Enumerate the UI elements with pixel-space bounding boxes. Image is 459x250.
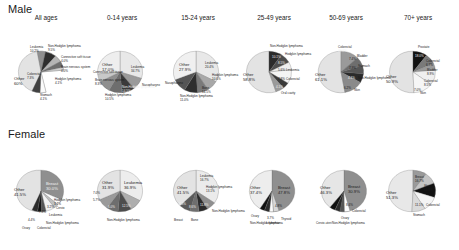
panel-male-25-49: 25-49 years: [236, 0, 312, 125]
slice-label-ovary: Ovary: [251, 214, 260, 218]
slice-value-colorectal: 6.7%: [426, 63, 433, 67]
slice-label-nhl: Non-Hodgkin lymphoma: [332, 221, 365, 225]
pie-female-70plus: Other 51.3% Breast 16.7% Skin 10.8% Colo…: [380, 151, 456, 247]
slice-value-hodgkin: 10.5%: [105, 97, 114, 101]
slice-value-connective: 4.0%: [61, 59, 68, 63]
slice-label-ovary: Ovary: [22, 226, 31, 230]
slice-label-oral: Oral cavity: [281, 91, 296, 95]
slice-label-cervix: Cervix-uteri: [316, 221, 332, 225]
slice-label-colorectal: Colorectal: [426, 203, 440, 207]
pie-female-25-49: Other 37.4% Breast 47.8% Thyroid 4.8% Le…: [236, 151, 312, 247]
slice-value-bladder: 8.9%: [427, 72, 434, 76]
slice-label-prostate: Prostate: [418, 45, 430, 49]
slice-label-skin: Skin: [354, 88, 360, 92]
slice-value-other: 27.9%: [179, 67, 191, 72]
male-panels: All ages: [0, 0, 459, 125]
slice-value-breast: 30.0%: [46, 186, 58, 191]
slice-label-nhl: Non-Hodgkin lymphoma: [107, 218, 140, 222]
slice-value-nhl: 11.8%: [200, 203, 209, 207]
slice-value-stomach: 4.1%: [40, 97, 47, 101]
slice-value-nhl: 11.0%: [180, 98, 189, 102]
panel-female-0-14: Other 31.9% Leukemia 36.9% Non-Hodgkin l…: [84, 125, 160, 250]
panel-female-50-69: Other 46.3% Breast 30.9% Colorectal 8.4%…: [308, 125, 384, 250]
slice-label-nhl: Non-Hodgkin lymphoma: [270, 44, 303, 48]
panel-male-all-ages: All ages: [8, 0, 84, 125]
panel-header-70plus: 70+ years: [380, 14, 456, 21]
panel-male-70plus: 70+ years Other: [380, 0, 456, 125]
slice-label-nhl: Non-Hodgkin lymphoma: [46, 221, 79, 225]
pie-male-all-ages: Other 60% Leukemia 10.2% Non-Hodgkin lym…: [8, 26, 84, 122]
slice-label-colorectal: Colorectal: [352, 209, 366, 213]
slice-value-hodgkin: 3.7%: [54, 202, 61, 206]
slice-value-nhl: 4.1%: [348, 76, 355, 80]
slice-label-nasopharynx: Nasopharynx: [165, 81, 183, 85]
pie-female-15-24: Other 41.5% Leukemia 16.7% Hodgkin lymph…: [160, 151, 236, 247]
slice-value-leukemia: 10.2%: [30, 49, 39, 53]
slice-value-other: 50.9%: [386, 79, 398, 84]
slice-value-colorectal: 11.1%: [415, 203, 424, 207]
slice-value-other: 58.8%: [243, 77, 255, 82]
slice-value-nhl: 10.1%: [272, 55, 281, 59]
pie-male-70plus: Other 50.9% Prostate 18.0% Colorectal 6.…: [380, 26, 456, 122]
slice-value-hodgkin: 4.1%: [55, 81, 62, 85]
slice-label-colorectal: Colorectal: [37, 226, 51, 230]
slice-value-breast: 47.8%: [278, 190, 290, 195]
slice-value-hodgkin: 8.5%: [278, 61, 285, 65]
slice-value-breast: 8.3%: [179, 202, 186, 206]
slice-value-leukemia: 3.7%: [267, 216, 274, 220]
slice-label-bladder: Bladder: [357, 54, 368, 58]
slice-value-thyroid: 4.8%: [275, 204, 282, 208]
panel-male-0-14: 0-14 years: [84, 0, 160, 125]
slice-value-cervix: 3.2%: [47, 205, 54, 209]
slice-value-nhl: 9.5%: [48, 48, 55, 52]
pie-chart-grid-figure: Male All ages: [0, 0, 459, 250]
slice-value-brain: 8.3%: [95, 82, 102, 86]
slice-value-brain: 4.0%: [61, 69, 68, 73]
panel-header-15-24: 15-24 years: [160, 14, 236, 21]
slice-value-other: 31.9%: [102, 185, 114, 190]
slice-value-leukemia: 5.6%: [278, 68, 285, 72]
slice-value-prostate: 18.0%: [415, 54, 424, 58]
slice-value-hodgkin: 10.6%: [212, 77, 221, 81]
panel-female-70plus: Other 51.3% Breast 16.7% Skin 10.8% Colo…: [380, 125, 456, 250]
slice-label-breast: Breast: [174, 218, 183, 222]
slice-value-other: 60%: [14, 81, 23, 86]
slice-value-other: 41.5%: [14, 192, 26, 197]
slice-value-liver: 4.1%: [276, 85, 283, 89]
pie-male-15-24: Other 27.9% Leukemia 20.4% Hodgkin lymph…: [160, 26, 236, 122]
slice-value-other: 41.5%: [177, 190, 189, 195]
panel-header-50-69: 50-69 years: [308, 14, 384, 21]
slice-value-colorectal: 8.4%: [346, 203, 353, 207]
row-male: Male All ages: [0, 0, 459, 125]
slice-value-leukemia: 7.3%: [39, 210, 46, 214]
slice-label-leukemia: Leukemia: [49, 213, 63, 217]
slice-value-other: 37.4%: [250, 190, 262, 195]
slice-label-stomach: Stomach: [358, 64, 370, 68]
row-female: Female: [0, 125, 459, 250]
slice-value-skin: 6.2%: [344, 86, 351, 90]
slice-value-leukemia: 16.7%: [200, 178, 209, 182]
slice-value-other: 46.3%: [320, 190, 332, 195]
slice-value-colorectal: 7.8%: [278, 77, 285, 81]
slice-value-hodgkin: 13.1%: [206, 189, 215, 193]
panel-male-15-24: 15-24 years Other: [160, 0, 236, 125]
slice-value-nhl: 4.4%: [28, 218, 35, 222]
slice-label-cervix: Cervix: [56, 206, 65, 210]
slice-value-skin: 10.8%: [424, 188, 433, 192]
slice-value-nhl: 12.5%: [122, 204, 131, 208]
pie-female-50-69: Other 46.3% Breast 30.9% Colorectal 8.4%…: [308, 151, 384, 247]
slice-value-nhl: 14.5%: [122, 89, 131, 93]
slice-value-bone: 8.6%: [189, 205, 196, 209]
pie-female-all-ages: Other 41.5% Breast 30.0% Hodgkin lymphom…: [8, 151, 84, 247]
slice-value-leukemia: 36.9%: [124, 185, 136, 190]
slice-value-colorectal: 7.3%: [27, 76, 34, 80]
panel-header-0-14: 0-14 years: [84, 14, 160, 21]
slice-label-colorectal: Colorectal: [286, 77, 300, 81]
pie-female-0-14: Other 31.9% Leukemia 36.9% Non-Hodgkin l…: [84, 151, 160, 247]
slice-label-ovary: Ovary: [341, 216, 350, 220]
slice-value-bone: 7.0%: [93, 191, 100, 195]
slice-value-other: 61.1%: [315, 77, 327, 82]
slice-value-other: 51.3%: [386, 195, 398, 200]
slice-value-stomach: 7.3%: [349, 66, 356, 70]
slice-value-leukemia: 34.7%: [131, 69, 140, 73]
